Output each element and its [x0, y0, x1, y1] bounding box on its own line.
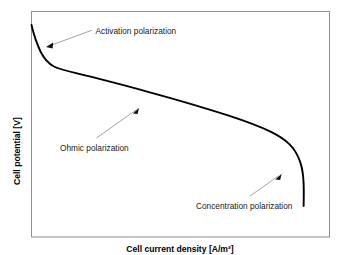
- polarization-curve-chart: Activation polarization Ohmic polarizati…: [0, 0, 348, 255]
- ohmic-label: Ohmic polarization: [60, 143, 129, 153]
- x-axis-title: Cell current density [A/m²]: [126, 244, 234, 254]
- activation-label: Activation polarization: [96, 26, 177, 36]
- chart-screenshot: Activation polarization Ohmic polarizati…: [0, 0, 348, 255]
- concentration-label: Concentration polarization: [196, 201, 293, 211]
- y-axis-title: Cell potential [V]: [12, 117, 22, 185]
